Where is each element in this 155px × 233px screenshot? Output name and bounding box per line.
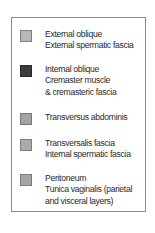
label-line: Tunica vaginalis (parietal [45, 183, 132, 194]
legend-label: Transversus abdominis [45, 111, 127, 122]
label-line: Cremaster muscle [45, 74, 116, 85]
legend-label: Transversalis fascia Internal spermatic … [45, 137, 131, 160]
legend-label: Internal oblique Cremaster muscle & crem… [45, 63, 116, 97]
legend-label: Peritoneum Tunica vaginalis (parietal an… [45, 172, 132, 206]
label-line: Peritoneum [45, 172, 132, 183]
label-line: Transversalis fascia [45, 137, 131, 148]
legend-box: External oblique External spermatic fasc… [11, 17, 146, 212]
swatch-transversus-abdominis [20, 113, 32, 125]
swatch-peritoneum [20, 174, 32, 186]
label-line: & cremasteric fascia [45, 86, 116, 97]
swatch-internal-oblique [20, 65, 32, 77]
label-line: Internal spermatic fascia [45, 148, 131, 159]
swatch-transversalis-fascia [20, 139, 32, 151]
label-line: External spermatic fascia [45, 39, 134, 50]
label-line: and visceral layers) [45, 195, 132, 206]
label-line: Internal oblique [45, 63, 116, 74]
label-line: Transversus abdominis [45, 111, 127, 122]
swatch-external-oblique [20, 30, 32, 42]
label-line: External oblique [45, 28, 134, 39]
legend-label: External oblique External spermatic fasc… [45, 28, 134, 51]
